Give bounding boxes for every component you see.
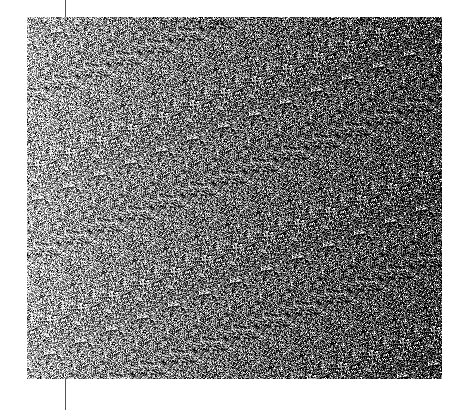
vertical-guide-line-bottom <box>65 379 66 410</box>
vertical-guide-line-top <box>65 0 66 17</box>
noise-field <box>27 17 442 379</box>
